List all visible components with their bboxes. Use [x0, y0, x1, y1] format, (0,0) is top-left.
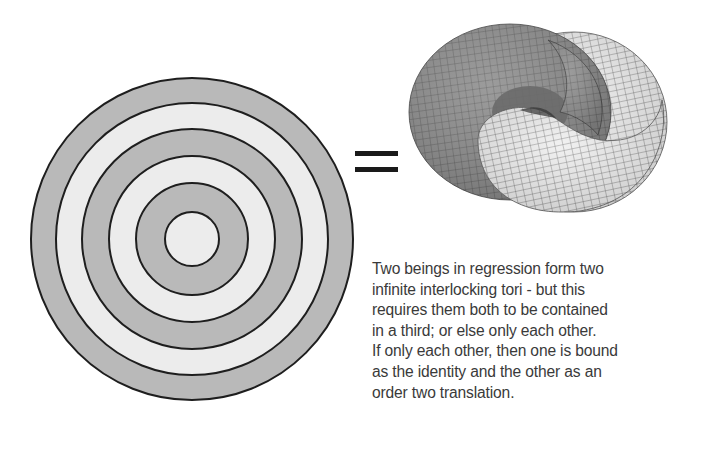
caption-line-2: infinite interlocking tori - but this — [372, 280, 692, 301]
caption-text: Two beings in regression form two infini… — [372, 259, 692, 403]
caption-line-6: as the identity and the other as an — [372, 362, 692, 383]
ring-6 — [165, 212, 219, 266]
caption-line-1: Two beings in regression form two — [372, 259, 692, 280]
equals-sign — [355, 151, 398, 172]
concentric-circles — [31, 78, 353, 400]
caption-line-5: If only each other, then one is bound — [372, 341, 692, 362]
interlocking-tori — [409, 24, 667, 212]
caption-line-3: requires them both to be contained — [372, 300, 692, 321]
caption-line-4: in a third; or else only each other. — [372, 321, 692, 342]
caption-line-7: order two translation. — [372, 383, 692, 404]
